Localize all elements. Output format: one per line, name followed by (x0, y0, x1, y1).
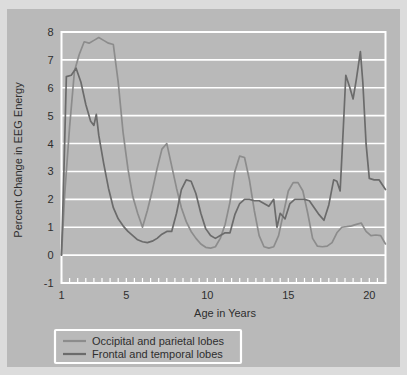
y-tick-label: 2 (47, 193, 53, 205)
figure-container: -1012345678 15101520 Percent Change in E… (0, 0, 407, 375)
x-tick-label: 15 (282, 289, 294, 301)
y-tick-label: -1 (44, 277, 54, 289)
x-tick-label: 1 (58, 289, 64, 301)
plot-frame (62, 32, 386, 283)
y-tick-label: 1 (47, 221, 53, 233)
y-tick-label: 5 (47, 110, 53, 122)
gridlines-group (62, 32, 386, 283)
x-tick-labels-group: 15101520 (58, 289, 375, 301)
y-tick-label: 0 (47, 249, 53, 261)
x-tick-label: 20 (363, 289, 375, 301)
x-tick-label: 10 (201, 289, 213, 301)
y-tick-label: 6 (47, 82, 53, 94)
chart-legend: Occipital and parietal lobes Frontal and… (55, 330, 241, 363)
eeg-line-chart: -1012345678 15101520 Percent Change in E… (0, 0, 407, 375)
x-tick-label: 5 (123, 289, 129, 301)
y-tick-label: 3 (47, 165, 53, 177)
legend-label-occipital-parietal: Occipital and parietal lobes (92, 335, 225, 347)
y-tick-label: 8 (47, 26, 53, 38)
legend-label-frontal-temporal: Frontal and temporal lobes (92, 348, 223, 360)
y-axis-title: Percent Change in EEG Energy (12, 82, 24, 238)
y-tick-labels-group: -1012345678 (44, 26, 54, 289)
series-line-frontal-temporal (62, 52, 386, 256)
y-tick-label: 7 (47, 54, 53, 66)
y-tick-label: 4 (47, 138, 53, 150)
x-axis-title: Age in Years (194, 307, 256, 319)
series-group (62, 38, 386, 256)
series-line-occipital-parietal (62, 38, 386, 256)
